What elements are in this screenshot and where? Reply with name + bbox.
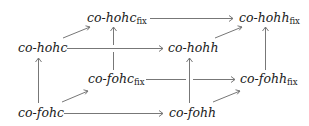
node-label: co-fohh bbox=[169, 105, 216, 120]
node-co-fohc-fix: co-fohcfix bbox=[88, 73, 144, 87]
arrow-hohc-fix-to-hohh-fix bbox=[150, 16, 233, 22]
node-co-hohc-fix: co-hohcfix bbox=[87, 12, 147, 26]
node-co-hohh-fix: co-hohhfix bbox=[239, 12, 300, 26]
fix-subscript: fix bbox=[289, 16, 299, 26]
arrow-fohh-to-fohh-fix bbox=[213, 90, 240, 102]
arrow-fohh-fix-to-hohh-fix bbox=[263, 27, 269, 70]
arrow-fohc-to-fohc-fix bbox=[62, 90, 88, 102]
arrow-fohc-to-hohc bbox=[36, 58, 42, 103]
arrow-fohc-fix-to-fohh-fix bbox=[146, 77, 235, 83]
node-label: co-hohc bbox=[18, 40, 67, 55]
node-label: co-fohc bbox=[18, 105, 64, 120]
arrow-hohc-to-hohc-fix bbox=[63, 26, 90, 38]
arrow-hohc-to-hohh bbox=[67, 46, 163, 52]
node-label: co-hohh bbox=[239, 10, 289, 25]
node-co-fohh-fix: co-fohhfix bbox=[240, 73, 297, 87]
fix-subscript: fix bbox=[287, 77, 297, 87]
node-co-fohh: co-fohh bbox=[169, 107, 216, 120]
node-co-hohc: co-hohc bbox=[18, 42, 67, 55]
arrow-fohc-to-fohh bbox=[64, 111, 163, 117]
node-label: co-fohc bbox=[88, 71, 134, 86]
node-label: co-fohh bbox=[240, 71, 287, 86]
node-label: co-hohc bbox=[87, 10, 136, 25]
fix-subscript: fix bbox=[136, 16, 146, 26]
arrow-fohh-to-hohh bbox=[187, 58, 193, 103]
node-co-hohh: co-hohh bbox=[168, 42, 218, 55]
commutative-diagram: co-hohcfix co-hohhfix co-hohc co-hohh co… bbox=[0, 0, 309, 126]
node-co-fohc: co-fohc bbox=[18, 107, 64, 120]
fix-subscript: fix bbox=[134, 77, 144, 87]
node-label: co-hohh bbox=[168, 40, 218, 55]
arrow-hohh-to-hohh-fix bbox=[215, 26, 242, 38]
